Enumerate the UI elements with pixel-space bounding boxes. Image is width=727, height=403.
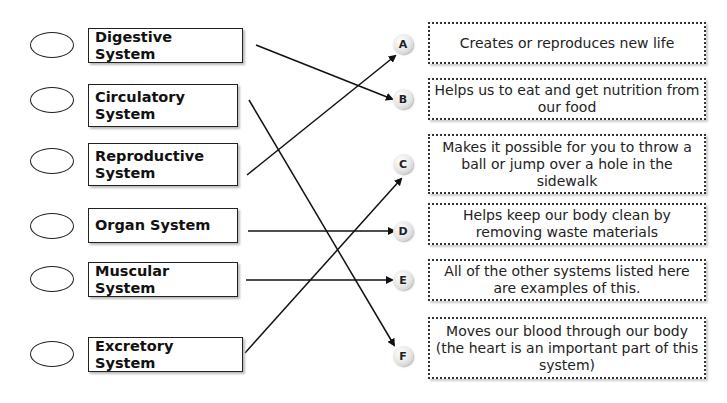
system-box-digestive: Digestive System [88, 28, 243, 63]
letter-badge-e: E [393, 270, 413, 290]
letter-badge-d: D [393, 221, 413, 241]
description-box-a: Creates or reproduces new life [428, 22, 706, 64]
description-box-c: Makes it possible for you to throw a bal… [428, 134, 706, 194]
system-label: Digestive System [95, 29, 236, 63]
answer-oval-6[interactable] [30, 341, 74, 367]
system-label: Reproductive System [95, 148, 231, 182]
description-box-d: Helps keep our body clean by removing wa… [428, 203, 706, 245]
line-digestive-to-b [256, 45, 392, 99]
letter-badge-b: B [393, 89, 413, 109]
system-label: Muscular System [95, 263, 231, 297]
letter-badge-f: F [393, 346, 413, 366]
letter-badge-a: A [393, 34, 413, 54]
description-box-e: All of the other systems listed here are… [428, 259, 706, 301]
line-reproductive-to-a [247, 56, 395, 175]
description-text: Creates or reproduces new life [460, 35, 675, 52]
description-text: Makes it possible for you to throw a bal… [434, 139, 700, 190]
system-box-organ: Organ System [88, 208, 238, 243]
letter-badge-c: C [393, 154, 413, 174]
system-label: Circulatory System [95, 89, 231, 123]
description-box-b: Helps us to eat and get nutrition from o… [428, 78, 706, 120]
description-box-f: Moves our blood through our body (the he… [428, 317, 706, 379]
answer-oval-3[interactable] [30, 148, 74, 174]
system-box-circulatory: Circulatory System [88, 84, 238, 127]
system-box-reproductive: Reproductive System [88, 143, 238, 186]
line-circulatory-to-f [249, 100, 394, 345]
answer-oval-1[interactable] [30, 32, 74, 58]
system-box-excretory: Excretory System [88, 337, 243, 372]
description-text: Helps keep our body clean by removing wa… [434, 207, 700, 241]
line-excretory-to-c [245, 179, 401, 353]
answer-oval-5[interactable] [30, 266, 74, 292]
description-text: Helps us to eat and get nutrition from o… [434, 82, 700, 116]
system-box-muscular: Muscular System [88, 262, 238, 297]
system-label: Excretory System [95, 338, 236, 372]
answer-oval-2[interactable] [30, 87, 74, 113]
answer-oval-4[interactable] [30, 213, 74, 239]
description-text: All of the other systems listed here are… [434, 263, 700, 297]
description-text: Moves our blood through our body (the he… [434, 323, 700, 374]
system-label: Organ System [95, 217, 210, 234]
